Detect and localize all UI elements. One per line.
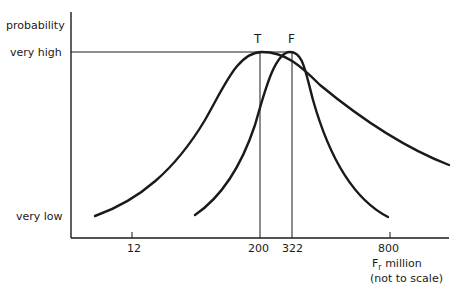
marker-label-F: F	[288, 33, 295, 45]
x-axis-subscript: r	[378, 263, 381, 272]
curve-T	[95, 52, 449, 216]
x-tick-12: 12	[127, 243, 141, 254]
y-tick-very-high: very high	[10, 47, 62, 58]
y-axis-label: probability	[6, 20, 65, 31]
x-tick-322: 322	[282, 243, 303, 254]
x-axis-unit: million	[385, 257, 422, 270]
x-tick-200: 200	[248, 243, 269, 254]
x-axis-label: Fr million	[372, 258, 422, 272]
x-tick-800: 800	[378, 243, 399, 254]
y-tick-very-low: very low	[16, 211, 63, 222]
marker-label-T: T	[254, 33, 261, 45]
x-axis-note: (not to scale)	[370, 273, 443, 284]
